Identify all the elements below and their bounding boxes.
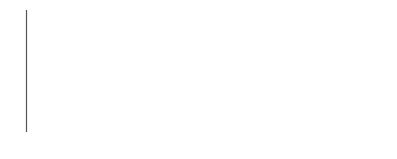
capnogram-chart [0, 0, 397, 159]
